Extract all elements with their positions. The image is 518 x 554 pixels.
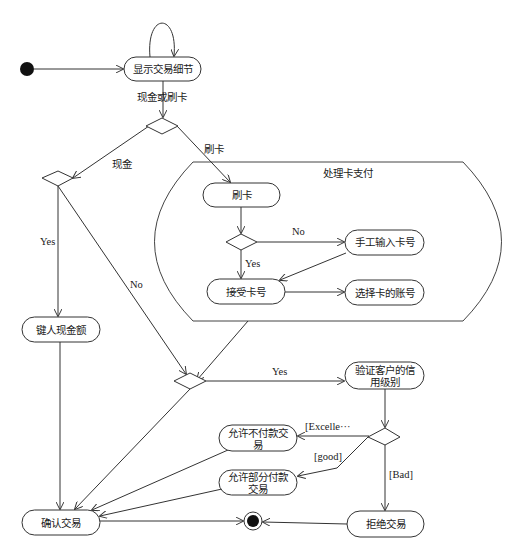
node-label: 确认交易 <box>41 517 81 529</box>
node-label: 显示交易细节 <box>133 63 193 75</box>
node-label-line2: 用级别 <box>370 376 400 388</box>
edges <box>34 23 385 524</box>
edge-label-cash-or-card: 现金或刷卡 <box>137 91 187 103</box>
edge-label-swipe-yes: Yes <box>245 258 260 269</box>
node-allow-partial-payment: 允许部分付款 交易 <box>219 470 297 495</box>
node-allow-no-payment: 允许不付款交 易 <box>219 425 297 451</box>
node-label-line1: 允许部分付款 <box>228 471 289 483</box>
node-swipe-card: 刷卡 <box>203 183 280 207</box>
edge-label-card: 刷卡 <box>204 143 224 155</box>
node-label: 接受卡号 <box>226 286 266 298</box>
decision-credit-level <box>368 428 400 445</box>
final-node <box>244 512 262 530</box>
node-label-line1: 允许不付款交 <box>228 427 289 439</box>
activity-diagram: 处理卡支付 <box>0 0 518 554</box>
edge-label-good: [good] <box>314 451 342 462</box>
node-label: 键人现金额 <box>36 324 87 336</box>
node-reject-transaction: 拒绝交易 <box>347 511 424 537</box>
edge-label-cash-yes: Yes <box>40 236 55 247</box>
node-label-line2: 交易 <box>248 483 268 495</box>
node-label-line2: 易 <box>253 439 263 451</box>
node-verify-credit: 验证客户的信 用级别 <box>345 362 424 389</box>
node-enter-cash: 键人现金额 <box>22 317 100 342</box>
edge-label-swipe-no: No <box>292 226 305 237</box>
decision-swipe-ok <box>226 234 257 250</box>
region-label: 处理卡支付 <box>323 167 373 179</box>
node-select-account: 选择卡的账号 <box>345 280 424 305</box>
edge-label-bad: [Bad] <box>389 469 413 480</box>
node-label: 手工输入卡号 <box>355 236 415 248</box>
node-accept-card: 接受卡号 <box>207 279 285 304</box>
node-confirm-transaction: 确认交易 <box>22 510 100 535</box>
initial-node <box>20 62 34 76</box>
node-label: 刷卡 <box>232 189 252 201</box>
node-label: 选择卡的账号 <box>355 287 415 299</box>
edge-label-excellent: [Excelle··· <box>305 421 350 432</box>
node-show-details: 显示交易细节 <box>124 57 201 81</box>
decision-cash-or-card <box>146 118 178 134</box>
decision-cash <box>42 171 73 186</box>
edge-label-merge-yes: Yes <box>272 366 287 377</box>
edge-label-cash-no: No <box>130 279 143 290</box>
node-label-line1: 验证客户的信 <box>355 364 415 376</box>
edge-label-cash: 现金 <box>112 158 133 170</box>
node-manual-entry: 手工输入卡号 <box>345 230 424 255</box>
node-label: 拒绝交易 <box>366 518 406 530</box>
